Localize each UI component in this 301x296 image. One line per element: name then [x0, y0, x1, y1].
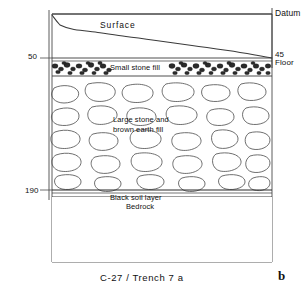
- depth-scale-rail: [40, 10, 52, 200]
- label-datum: Datum: [275, 8, 301, 18]
- label-floor: Floor: [275, 58, 294, 67]
- label-black-soil-layer: Black soil layer: [110, 193, 162, 202]
- label-bedrock: Bedrock: [126, 202, 154, 211]
- section-drawing-figure: Datum 45 Floor 50 190 Surface Small ston…: [0, 0, 301, 296]
- figure-caption: C-27 / Trench 7 a: [100, 272, 184, 283]
- label-small-stone-fill: Small stone fill: [110, 63, 160, 72]
- panel-letter: b: [278, 268, 285, 284]
- trench-section-svg: [0, 0, 301, 296]
- label-depth-50: 50: [28, 52, 37, 61]
- label-depth-190: 190: [25, 186, 39, 195]
- label-surface: Surface: [100, 20, 136, 30]
- bedrock-area: [52, 197, 272, 262]
- label-large-stone-fill: Large stone and brown earth fill: [113, 115, 177, 134]
